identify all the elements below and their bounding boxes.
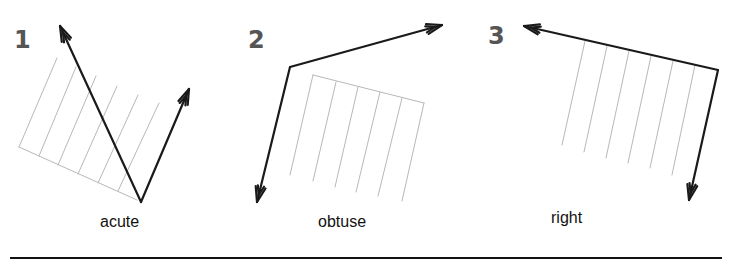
hatch-line xyxy=(402,103,424,201)
panel-3-arrow-2-icon xyxy=(687,70,718,200)
panel-1-arrow-2-icon xyxy=(141,89,189,202)
hatch-line xyxy=(628,56,651,163)
panel-3-number: 3 xyxy=(488,24,505,48)
panel-1-number: 1 xyxy=(14,28,31,52)
panel-2-arrow-2-icon xyxy=(256,67,290,202)
hatch-line xyxy=(118,103,159,191)
panel-3-label-right: right xyxy=(551,210,582,226)
hatch-line xyxy=(378,98,402,196)
panel-2-number: 2 xyxy=(248,28,265,52)
hatch-line xyxy=(39,67,76,156)
panel-3-arrow-1-icon xyxy=(524,24,718,70)
hatch-line xyxy=(356,92,380,192)
hatch-line xyxy=(290,75,313,175)
hatch-base-line xyxy=(313,75,424,103)
hatch-line xyxy=(19,58,57,147)
panel-2-arrow-1-icon xyxy=(290,24,442,67)
hatch-line xyxy=(672,65,695,175)
hatch-line xyxy=(606,51,629,158)
angle-types-figure: 1 2 3 acute obtuse right xyxy=(0,0,731,264)
panel-1-label-acute: acute xyxy=(100,214,139,230)
hatch-line xyxy=(562,41,585,145)
hatch-line xyxy=(335,87,358,187)
hatch-line xyxy=(313,82,336,181)
hatch-line xyxy=(650,61,673,168)
hatch-line xyxy=(78,86,117,174)
panel-2-label-obtuse: obtuse xyxy=(318,214,366,230)
hatch-line xyxy=(98,95,138,183)
bottom-rule-divider xyxy=(10,257,722,259)
hatch-line xyxy=(584,46,607,152)
